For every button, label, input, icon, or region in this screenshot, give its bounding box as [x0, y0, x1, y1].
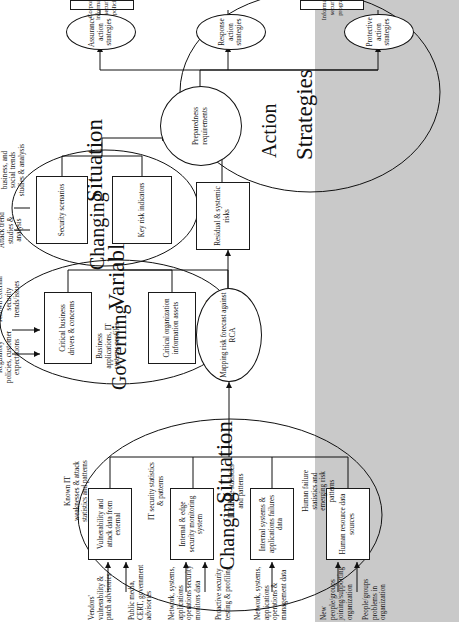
- changing-situation-input-5-label: Network, systems, applications operation…: [254, 564, 289, 620]
- changing-situation-box-1-label: Vulnerability and attack data from exter…: [97, 491, 123, 557]
- changing-situation-box-4-label: Human resource data sources: [339, 491, 357, 557]
- section-title-action-strategies-word2: Strategies: [292, 69, 318, 160]
- governing-variables-box-1-label: Critical business drivers & concerns: [59, 295, 77, 361]
- process-node-mapping-risk-forecast: Mapping risk forecast against RCA: [196, 288, 262, 382]
- process-node-residual-systemic-risks-label: Residual & systemic risks: [214, 185, 232, 247]
- changing-situation-box-3-label: Internal systems & applications failures…: [259, 491, 285, 557]
- changing-situation-input-1-label: Vendors' vulnerability & patch advisorie…: [88, 564, 114, 620]
- changing-situation-right-box-2: Security scenarios: [36, 176, 88, 244]
- governing-variables-box-2-label: Critical organization information assets: [163, 295, 181, 361]
- action-strategy-response: Response action strategies: [196, 14, 266, 50]
- changing-situation-right-input-1-label: Attack trend studies & analysis: [0, 204, 24, 256]
- changing-situation-box-3: Internal systems & applications failures…: [250, 488, 294, 560]
- changing-situation-output-2-label: IT security statistics & patterns: [148, 460, 165, 522]
- changing-situation-right-input-2-label: Technology, business, and social trends …: [0, 142, 27, 198]
- section-title-action-strategies-word1: Action: [258, 104, 281, 158]
- changing-situation-input-4-label: Proactive security testing & profiling: [215, 564, 232, 620]
- changing-situation-input-2-label: Public media, CERT, government advisorie…: [128, 564, 154, 620]
- process-node-preparedness-requirements: Preparedness requirements: [160, 86, 242, 166]
- rotated-diagram-wrapper: Changing Situation Vendors' vulnerabilit…: [0, 0, 459, 622]
- changing-situation-box-1: Vulnerability and attack data from exter…: [88, 488, 132, 560]
- changing-situation-right-box-1: Key risk indicators: [112, 176, 172, 244]
- action-strategy-output-corporate-policies: Corporate information security policies: [70, 0, 134, 10]
- changing-situation-right-box-2-label: Security scenarios: [58, 184, 67, 237]
- governing-variables-input-3-label: Business applications, IT systems profil…: [96, 316, 122, 376]
- action-strategy-output-security-program-label: Information security program: [320, 0, 343, 20]
- diagram-canvas: Changing Situation Vendors' vulnerabilit…: [0, 0, 459, 622]
- action-strategy-assurance-label: Assurance action strategies: [88, 17, 114, 47]
- changing-situation-box-2-label: Internal & edge security monitoring syst…: [179, 491, 205, 557]
- changing-situation-output-1-label: Known IT weaknesses & attack statistics …: [64, 460, 90, 522]
- action-strategy-output-corporate-policies-label: Corporate information security policies: [86, 0, 117, 20]
- action-strategy-protective-label: Protective action strategies: [366, 17, 392, 46]
- changing-situation-box-2: Internal & edge security monitoring syst…: [170, 488, 214, 560]
- process-node-residual-systemic-risks: Residual & systemic risks: [196, 182, 250, 250]
- changing-situation-right-box-1-label: Key risk indicators: [138, 183, 147, 238]
- governing-variables-input-2-label: Known external security trends/issues: [0, 272, 22, 326]
- section-title-changing-situation-right-word1: Changing: [86, 192, 109, 270]
- action-strategy-output-security-program: Information security program: [300, 0, 364, 10]
- process-node-preparedness-requirements-label: Preparedness requirements: [192, 90, 210, 162]
- changing-situation-output-4-label: Human failure statistics and emerging ri…: [302, 460, 337, 522]
- process-node-mapping-risk-forecast-label: Mapping risk forecast against RCA: [220, 292, 238, 378]
- changing-situation-input-6-label: New people/groups joining/supporting org…: [320, 564, 355, 620]
- changing-situation-input-3-label: Network, systems, applications operation…: [168, 564, 203, 620]
- governing-variables-input-1-label: Regulatory policies, customer expectatio…: [0, 330, 22, 384]
- changing-situation-output-3-label: IT failure statistics and patterns: [228, 460, 245, 522]
- governing-variables-box-2: Critical organization information assets: [148, 292, 196, 364]
- changing-situation-input-7-label: People/groups problems in organization: [362, 564, 388, 620]
- action-strategy-response-label: Response action strategies: [218, 18, 244, 46]
- governing-variables-box-1: Critical business drivers & concerns: [44, 292, 92, 364]
- action-strategy-protective: Protective action strategies: [344, 14, 414, 50]
